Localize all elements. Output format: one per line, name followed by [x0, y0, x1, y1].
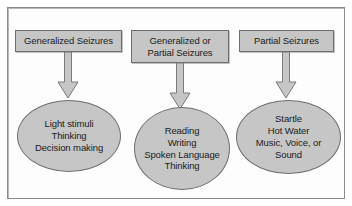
node-box-generalized-seizures[interactable]: Generalized Seizures	[15, 30, 122, 52]
ellipse-generalized-or-partial-triggers-text: Reading Writing Spoken Language Thinking	[144, 125, 220, 172]
down-arrow-generalized	[56, 52, 80, 100]
node-box-generalized-or-partial-seizures[interactable]: Generalized or Partial Seizures	[131, 30, 229, 63]
down-arrow-partial	[274, 52, 298, 100]
ellipse-generalized-triggers-text: Light stimuli Thinking Decision making	[35, 118, 103, 153]
ellipse-partial-triggers-text: Startle Hot Water Music, Voice, or Sound	[256, 113, 321, 160]
ellipse-generalized-triggers[interactable]: Light stimuli Thinking Decision making	[17, 100, 121, 172]
node-box-generalized-seizures-text: Generalized Seizures	[24, 35, 113, 47]
node-box-partial-seizures-text: Partial Seizures	[254, 35, 319, 47]
node-box-partial-seizures[interactable]: Partial Seizures	[239, 30, 334, 52]
down-arrow-icon	[274, 52, 298, 100]
down-arrow-icon	[56, 52, 80, 100]
node-box-generalized-or-partial-seizures-text: Generalized or Partial Seizures	[148, 35, 213, 58]
ellipse-generalized-or-partial-triggers[interactable]: Reading Writing Spoken Language Thinking	[134, 107, 230, 190]
diagram-canvas: Generalized Seizures Light stimuli Think…	[0, 0, 352, 206]
ellipse-partial-triggers[interactable]: Startle Hot Water Music, Voice, or Sound	[236, 100, 341, 174]
down-arrow-icon	[168, 63, 192, 111]
down-arrow-generalized-or-partial	[168, 63, 192, 111]
